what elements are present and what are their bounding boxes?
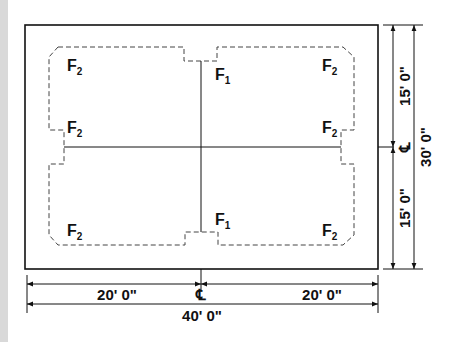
footing-label-f2: F2 <box>322 222 338 242</box>
svg-text:F2: F2 <box>322 222 338 242</box>
footing-label-f2: F2 <box>67 57 83 77</box>
svg-text:F1: F1 <box>215 66 231 86</box>
foundation-plan-drawing: F2 F2 F2 F2 F2 F2 F1 F1 20' 0" 20' 0" ℄ … <box>0 0 453 342</box>
svg-text:F2: F2 <box>67 57 83 77</box>
svg-text:F1: F1 <box>215 211 231 231</box>
centerline-symbol-bottom: ℄ <box>195 286 206 303</box>
dim-bottom-left: 20' 0" <box>97 286 137 303</box>
dim-bottom-total: 40' 0" <box>182 307 222 324</box>
dim-right-total: 30' 0" <box>417 127 434 167</box>
centerline-symbol-right: ℄ <box>396 142 413 153</box>
footing-label-f2: F2 <box>322 57 338 77</box>
bottom-dimensions: 20' 0" 20' 0" ℄ 40' 0" <box>27 275 378 324</box>
svg-text:F2: F2 <box>67 222 83 242</box>
footing-label-f2: F2 <box>322 119 338 139</box>
dim-bottom-right: 20' 0" <box>302 286 342 303</box>
svg-text:F2: F2 <box>322 57 338 77</box>
footing-label-f2: F2 <box>67 222 83 242</box>
svg-text:F2: F2 <box>322 119 338 139</box>
svg-text:F2: F2 <box>67 119 83 139</box>
dim-right-top: 15' 0" <box>396 66 413 106</box>
dim-right-bottom: 15' 0" <box>396 188 413 228</box>
footing-label-f2: F2 <box>67 119 83 139</box>
footing-label-f1: F1 <box>215 211 231 231</box>
footing-label-f1: F1 <box>215 66 231 86</box>
